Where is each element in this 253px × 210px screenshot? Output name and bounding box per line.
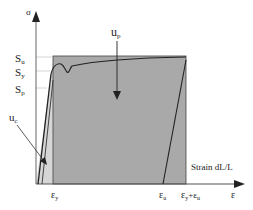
y-tick-su: Su — [15, 52, 25, 66]
stress-strain-diagram: σ Su Sy Sp up uc Strain dL/L εy εu εy+εu… — [0, 0, 253, 210]
y-tick-sy: Sy — [15, 66, 25, 80]
x-axis-arrow-icon — [234, 180, 245, 188]
y-axis-arrow-icon — [32, 11, 40, 22]
x-axis-label: ε — [231, 189, 235, 200]
x-tick-ey-plus-eu: εy+εu — [181, 189, 200, 201]
plastic-energy-label: up — [111, 25, 121, 40]
x-tick-ey: εy — [51, 189, 58, 201]
x-axis-caption: Strain dL/L — [191, 162, 233, 172]
elastic-energy-label: uc — [9, 111, 18, 125]
y-axis-label: σ — [26, 7, 31, 17]
x-tick-eu: εu — [159, 189, 166, 201]
y-tick-sp: Sp — [15, 83, 25, 97]
uc-arrow-line — [17, 125, 44, 161]
